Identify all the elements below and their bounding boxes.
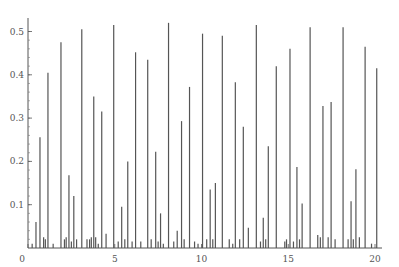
x-tick-label: 10 xyxy=(196,254,208,264)
x-tick-label: 0 xyxy=(19,254,25,264)
y-tick-label: 0.5 xyxy=(10,27,25,37)
x-tick-label: 20 xyxy=(369,254,381,264)
y-tick-label: 0.3 xyxy=(10,113,25,123)
y-tick-label: 0.4 xyxy=(10,70,25,80)
axes xyxy=(28,18,382,248)
x-tick-label: 15 xyxy=(283,254,295,264)
spike-chart: 0.10.20.30.40.5 05101520 xyxy=(0,0,399,267)
y-tick-label: 0.2 xyxy=(10,156,24,166)
y-ticks: 0.10.20.30.40.5 xyxy=(10,27,32,240)
x-tick-label: 5 xyxy=(112,254,118,264)
y-tick-label: 0.1 xyxy=(10,200,24,210)
spike-series xyxy=(32,23,377,248)
